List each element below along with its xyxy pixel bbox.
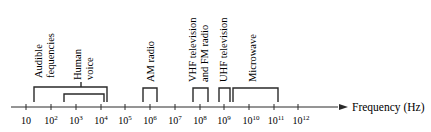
label-audible-line1: Audible [33, 44, 44, 78]
tick-label: 1012 [293, 114, 311, 126]
axis-title: Frequency (Hz) [352, 101, 425, 114]
bracket-microwave [233, 88, 278, 102]
label-vhf-line2: and FM radio [199, 25, 210, 82]
frequency-spectrum-diagram: Frequency (Hz) 10 102 103 104 105 106 10… [0, 0, 431, 132]
label-microwave: Microwave [247, 34, 258, 82]
label-am-radio: AM radio [145, 41, 156, 82]
bracket-uhf [219, 88, 230, 102]
band-labels: Audible fequencies Human voice AM radio … [33, 17, 258, 82]
band-brackets [34, 82, 278, 102]
tick-labels: 10 102 103 104 105 106 107 108 109 1010 … [21, 114, 310, 126]
tick-label: 105 [118, 114, 132, 126]
axis-arrow-icon [339, 104, 348, 110]
tick-label: 102 [44, 114, 58, 126]
label-human-voice-line1: Human [72, 48, 83, 80]
label-audible-line2: fequencies [45, 33, 56, 78]
tick-label: 103 [69, 114, 83, 126]
bracket-am-radio [143, 88, 157, 102]
bracket-vhf-fm [193, 88, 208, 102]
label-uhf: UHF television [218, 17, 229, 82]
tick-label: 10 [21, 115, 31, 126]
tick-label: 1011 [268, 114, 285, 126]
tick-label: 108 [193, 114, 207, 126]
tick-label: 1010 [243, 114, 261, 126]
tick-label: 109 [217, 114, 231, 126]
tick-label: 107 [168, 114, 182, 126]
tick-label: 104 [94, 114, 108, 126]
bracket-human-voice [64, 94, 104, 102]
label-vhf-line1: VHF television [187, 17, 198, 82]
tick-label: 106 [143, 114, 157, 126]
label-human-voice-line2: voice [84, 57, 95, 80]
